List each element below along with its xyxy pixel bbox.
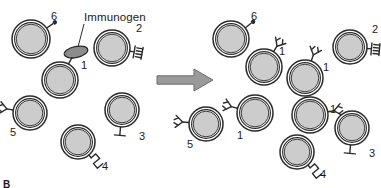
cell-number-label: 5 xyxy=(187,139,193,150)
lymphocyte-cell xyxy=(335,111,369,154)
figure-canvas xyxy=(0,0,381,188)
cell-number-label: 1 xyxy=(330,104,336,115)
cell-number-label: 5 xyxy=(10,127,16,138)
cell-number-label: 6 xyxy=(251,11,257,22)
cell-number-label: 4 xyxy=(320,169,326,180)
lymphocyte-clonal-selection-diagram xyxy=(0,0,381,188)
lymphocyte-cell xyxy=(174,107,223,141)
cell-number-label: 1 xyxy=(323,62,329,73)
lymphocyte-cell xyxy=(94,30,143,66)
cell-number-label: 1 xyxy=(237,130,243,141)
panel-letter: B xyxy=(3,180,10,188)
lymphocyte-cell xyxy=(213,19,256,57)
cell-number-label: 3 xyxy=(139,131,145,142)
immunogen-particle xyxy=(63,44,89,60)
immunogen-label: Immunogen xyxy=(84,12,146,24)
cell-number-label: 2 xyxy=(372,24,378,35)
lymphocyte-cell xyxy=(0,96,47,130)
lymphocyte-cell xyxy=(105,93,139,136)
lymphocyte-cell xyxy=(333,30,380,64)
cell-number-label: 3 xyxy=(369,148,375,159)
lymphocyte-cell xyxy=(12,19,58,58)
lymphocyte-cell xyxy=(287,45,323,96)
cell-number-label: 2 xyxy=(136,23,142,34)
right-arrow-icon xyxy=(157,69,213,91)
lymphocyte-cell xyxy=(61,125,103,168)
lymphocyte-cell xyxy=(222,95,273,131)
lymphocyte-cell xyxy=(246,36,287,85)
cell-number-label: 6 xyxy=(51,11,57,22)
cell-number-label: 1 xyxy=(81,60,87,71)
cell-number-label: 4 xyxy=(102,161,108,172)
cell-number-label: 1 xyxy=(279,46,285,57)
lymphocyte-cell xyxy=(280,135,322,178)
immunogen-leader-line xyxy=(78,24,84,47)
